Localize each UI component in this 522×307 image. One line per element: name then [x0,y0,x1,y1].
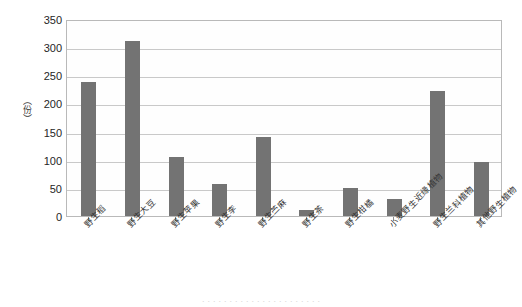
y-tick-label: 150 [26,128,62,139]
y-tick-label: 50 [26,184,62,195]
y-tick-label: 250 [26,71,62,82]
y-tick-label: 0 [26,212,62,223]
plot-area [66,20,502,217]
bottom-caption: · · · · · · · · · · · · · · · · · · · · … [0,297,522,307]
y-tick-label: 300 [26,43,62,54]
y-tick-label: 350 [26,15,62,26]
bar [81,82,96,216]
bar [256,137,271,216]
x-axis-category-labels: 野生稻野生大豆野生苹果野生李野生苎麻野生茶野生柑橘小麦野生近缘植物野生兰科植物其… [66,222,522,292]
y-tick-label: 100 [26,156,62,167]
bar [169,157,184,216]
bar-chart-figure: （份） 350300250200150100500 野生稻野生大豆野生苹果野生李… [0,0,522,307]
bar [125,41,140,216]
bar [430,91,445,216]
y-axis-tick-labels: 350300250200150100500 [26,15,62,217]
y-tick-label: 200 [26,99,62,110]
